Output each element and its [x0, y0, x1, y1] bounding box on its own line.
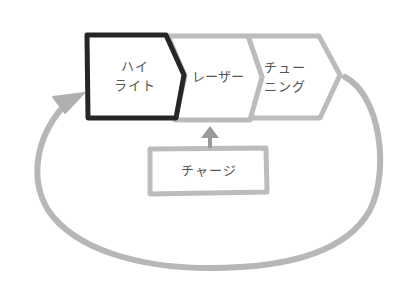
stage-highlight-label: ハイ ライト: [100, 57, 170, 95]
stage-tuning-label: チュー ニング: [258, 58, 334, 96]
diagram-canvas: [0, 0, 407, 291]
charge-label: チャージ: [150, 161, 267, 180]
stage-laser-label: レーザー: [178, 67, 258, 86]
charge-arrowhead-icon: [201, 126, 219, 138]
